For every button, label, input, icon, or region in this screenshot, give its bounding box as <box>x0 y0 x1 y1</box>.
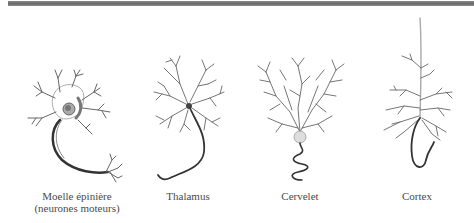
motor-neuron-label: Moelle épinière (neurones moteurs) <box>22 190 132 214</box>
thalamus-label: Thalamus <box>148 190 228 202</box>
cerebellum-label: Cervelet <box>260 190 340 202</box>
thalamus-neuron-illustration <box>130 0 240 190</box>
cortex-pyramidal-illustration <box>360 0 474 190</box>
motor-neuron-label-line2: (neurones moteurs) <box>22 202 132 214</box>
motor-neuron-label-line1: Moelle épinière <box>22 190 132 202</box>
cortex-label: Cortex <box>377 190 457 202</box>
motor-neuron-illustration <box>0 0 140 190</box>
cerebellum-purkinje-illustration <box>240 0 360 190</box>
